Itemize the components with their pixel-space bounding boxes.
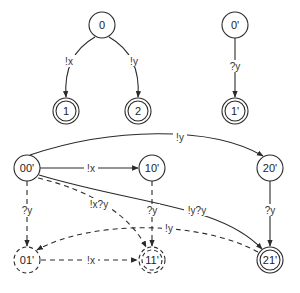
state-label: 1'	[231, 105, 239, 117]
edge-label: !y	[130, 56, 138, 67]
edge-label: ?y	[147, 205, 158, 216]
edge-20p-to-21p: ?y	[262, 181, 278, 246]
state-diagram: !x !y ?y !y !x !y?y !x?y ?y ?y	[0, 0, 300, 293]
edge-label: !x?y	[90, 199, 108, 210]
state-label: 10'	[145, 162, 159, 174]
state-01p: 01'	[14, 247, 40, 273]
state-11p: 11'	[139, 247, 165, 273]
state-0: 0	[89, 12, 115, 38]
state-label: 20'	[263, 162, 277, 174]
state-label: 2	[135, 105, 141, 117]
state-label: 0'	[231, 19, 239, 31]
edge-0p-to-1p: ?y	[227, 38, 243, 97]
edge-00p-to-10p: !x	[40, 162, 138, 174]
edge-label: !y	[176, 132, 184, 143]
state-label: 01'	[20, 254, 34, 266]
edge-00p-to-01p: ?y	[19, 181, 35, 246]
edge-label: ?y	[22, 205, 33, 216]
edge-label: !x	[65, 56, 73, 67]
edge-label: ?y	[265, 205, 276, 216]
state-00p: 00'	[14, 155, 40, 181]
state-0p: 0'	[222, 12, 248, 38]
edge-label: ?y	[230, 61, 241, 72]
edge-0-to-1: !x	[62, 37, 95, 97]
edge-00p-to-20p: !y	[30, 131, 263, 156]
state-1: 1	[53, 98, 79, 124]
state-1p: 1'	[222, 98, 248, 124]
edge-label: !x	[87, 163, 95, 174]
edge-01p-to-11p: !x	[41, 254, 137, 266]
edge-label: !y	[165, 223, 173, 234]
state-2: 2	[125, 98, 151, 124]
state-label: 1	[63, 105, 69, 117]
state-label: 0	[99, 19, 105, 31]
edge-10p-to-11p: ?y	[144, 181, 160, 246]
state-label: 11'	[145, 254, 159, 266]
edge-0-to-2: !y	[109, 37, 141, 97]
state-10p: 10'	[139, 155, 165, 181]
state-label: 21'	[263, 254, 277, 266]
state-label: 00'	[20, 162, 34, 174]
state-21p: 21'	[257, 247, 283, 273]
state-20p: 20'	[257, 155, 283, 181]
edge-label: !y?y	[188, 205, 206, 216]
edge-label: !x	[87, 255, 95, 266]
